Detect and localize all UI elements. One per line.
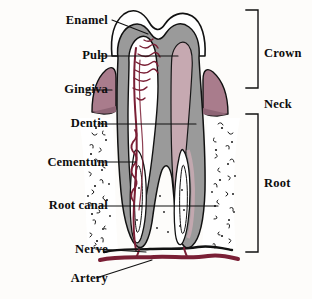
label-root: Root — [264, 177, 291, 190]
label-artery: Artery — [36, 272, 108, 285]
label-dentin: Dentin — [24, 117, 108, 130]
label-enamel: Enamel — [28, 14, 108, 27]
label-root-canal: Root canal — [10, 199, 108, 212]
leader-enamel — [112, 20, 148, 34]
label-pulp: Pulp — [28, 49, 108, 62]
label-crown: Crown — [264, 47, 302, 60]
label-cementum: Cementum — [6, 156, 108, 169]
bracket-crown — [246, 10, 258, 88]
label-neck: Neck — [264, 98, 292, 111]
label-gingiva: Gingiva — [20, 83, 108, 96]
tooth-anatomy-diagram: Enamel Pulp Gingiva Dentin Cementum Root… — [0, 0, 312, 299]
label-nerve: Nerve — [38, 243, 108, 256]
bracket-root — [246, 114, 258, 252]
